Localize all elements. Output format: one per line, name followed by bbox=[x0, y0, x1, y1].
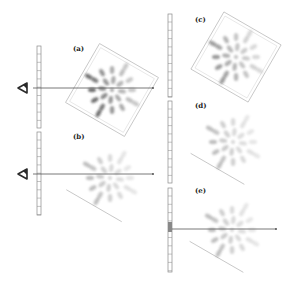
lattice-blob bbox=[222, 35, 230, 44]
lattice-blob bbox=[96, 174, 105, 179]
lattice-blob bbox=[114, 93, 122, 102]
lattice-blob bbox=[108, 194, 112, 202]
lattice-blob bbox=[98, 68, 106, 77]
figure: (a)(b)(c)(d)(e) bbox=[0, 0, 291, 288]
lattice-blob bbox=[118, 89, 127, 94]
lattice-blob bbox=[100, 92, 109, 100]
lattice-blob bbox=[221, 144, 230, 152]
lattice-blob bbox=[223, 130, 231, 139]
lattice-blob bbox=[239, 155, 247, 164]
figure-canvas bbox=[0, 0, 291, 288]
lattice-blob bbox=[96, 156, 104, 165]
lattice-blob bbox=[239, 47, 248, 55]
arrow-end-icon bbox=[152, 173, 154, 175]
lattice bbox=[66, 44, 159, 137]
lattice-blob bbox=[219, 120, 227, 129]
lattice-blob bbox=[232, 63, 237, 72]
panel-label-b: (b) bbox=[73, 133, 85, 141]
lattice-blob bbox=[116, 191, 124, 200]
panel-label-c: (c) bbox=[195, 16, 206, 24]
ruler-highlight bbox=[168, 222, 172, 232]
lattice-blob bbox=[102, 78, 110, 87]
lattice-blob bbox=[108, 154, 112, 162]
lattice-blob bbox=[235, 43, 240, 52]
lattice bbox=[191, 100, 276, 185]
panel-c bbox=[168, 12, 281, 102]
arrow-end-icon bbox=[275, 228, 277, 230]
lattice-blob bbox=[229, 227, 234, 232]
lattice-blob bbox=[235, 145, 243, 154]
lattice-blob bbox=[98, 180, 107, 188]
lattice-blob bbox=[116, 177, 125, 182]
lattice-blob bbox=[90, 96, 99, 104]
lattice-blob bbox=[230, 246, 234, 254]
lattice-blob bbox=[220, 232, 229, 240]
scale-ruler bbox=[37, 132, 41, 215]
lattice-blob bbox=[109, 164, 114, 173]
lattice-blob bbox=[246, 128, 255, 136]
lattice-blob bbox=[115, 80, 124, 88]
lattice-blob bbox=[224, 59, 233, 67]
lattice-blob bbox=[113, 168, 122, 176]
lattice-blob bbox=[107, 175, 112, 180]
arrow-end-icon bbox=[152, 87, 154, 89]
lattice-blob bbox=[238, 243, 246, 252]
panel-label-e: (e) bbox=[195, 187, 206, 195]
lattice-blob bbox=[88, 88, 96, 92]
lattice bbox=[191, 12, 281, 102]
eye-icon bbox=[18, 169, 27, 179]
lattice-blob bbox=[110, 106, 114, 114]
lattice-blob bbox=[100, 166, 108, 175]
lattice-blob bbox=[209, 140, 217, 144]
lattice-blob bbox=[238, 229, 247, 234]
lattice-blob bbox=[226, 45, 234, 54]
lattice-blob bbox=[112, 181, 120, 190]
lattice-blob bbox=[210, 236, 219, 244]
lattice-blob bbox=[123, 164, 132, 172]
lattice-blob bbox=[218, 208, 226, 217]
lattice-blob bbox=[128, 88, 136, 92]
lattice-blob bbox=[231, 216, 236, 225]
lattice-blob bbox=[236, 132, 245, 140]
lattice-blob bbox=[125, 76, 134, 84]
scale-ruler bbox=[168, 188, 172, 272]
panel-e bbox=[168, 188, 277, 273]
scale-ruler bbox=[37, 46, 41, 128]
panel-b bbox=[18, 132, 154, 222]
panel-d bbox=[168, 100, 275, 185]
lattice-blob bbox=[231, 158, 235, 166]
lattice-blob bbox=[211, 148, 220, 156]
lattice-blob bbox=[242, 56, 251, 61]
lattice bbox=[190, 188, 275, 273]
lattice-blob bbox=[98, 86, 107, 91]
lattice-blob bbox=[234, 33, 238, 41]
lattice-blob bbox=[214, 63, 223, 71]
lattice-blob bbox=[245, 216, 254, 224]
lattice-blob bbox=[111, 76, 116, 85]
panel-label-a: (a) bbox=[73, 45, 84, 53]
scale-ruler bbox=[168, 14, 172, 97]
lattice-blob bbox=[110, 66, 114, 74]
lattice-blob bbox=[248, 228, 256, 232]
lattice-blob bbox=[108, 96, 113, 105]
lattice-blob bbox=[208, 228, 216, 232]
lattice-blob bbox=[219, 138, 228, 143]
lattice-blob bbox=[106, 184, 111, 193]
lattice-blob bbox=[242, 70, 250, 79]
lattice-blob bbox=[249, 140, 257, 144]
lattice-blob bbox=[118, 103, 126, 112]
lattice-blob bbox=[222, 218, 230, 227]
lattice-blob bbox=[234, 233, 242, 242]
lattice-blob bbox=[232, 128, 237, 137]
lattice-blob bbox=[228, 236, 233, 245]
scale-ruler bbox=[168, 101, 172, 183]
lattice-blob bbox=[86, 176, 94, 180]
panel-a bbox=[18, 44, 158, 137]
lattice-blob bbox=[222, 53, 231, 58]
lattice bbox=[66, 135, 153, 222]
lattice-blob bbox=[231, 118, 235, 126]
lattice-blob bbox=[212, 55, 220, 59]
lattice-blob bbox=[126, 176, 134, 180]
panel-label-d: (d) bbox=[195, 102, 207, 110]
lattice-blob bbox=[238, 60, 246, 69]
